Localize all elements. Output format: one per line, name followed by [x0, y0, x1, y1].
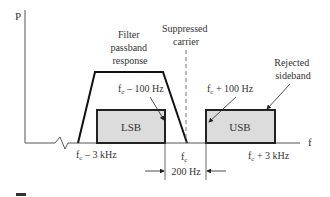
lsb-label: LSB: [121, 121, 141, 133]
power-axis-label: P: [15, 10, 21, 22]
fc-plus-100hz-label: fc + 100 Hz: [207, 83, 254, 96]
rejected-sideband-label: Rejected sideband: [274, 57, 311, 81]
rejected-sideband-arrow: [267, 84, 290, 109]
gap-200hz-label: 200 Hz: [171, 166, 201, 177]
ssb-filter-diagram: P f LSB USB Filter passband response Sup…: [0, 0, 330, 197]
fc-minus-3khz-label: fc – 3 kHz: [76, 149, 117, 162]
decorative-bar: [16, 193, 26, 196]
fc-label: fc: [181, 151, 187, 164]
frequency-axis-label: f: [308, 136, 312, 148]
suppressed-carrier-label: Suppressed carrier: [162, 23, 210, 47]
fc-minus-100hz-label: fc – 100 Hz: [118, 83, 164, 96]
fc-plus-3khz-label: fc + 3 kHz: [248, 150, 290, 163]
filter-label: Filter passband response: [110, 29, 149, 66]
usb-label: USB: [229, 121, 250, 133]
